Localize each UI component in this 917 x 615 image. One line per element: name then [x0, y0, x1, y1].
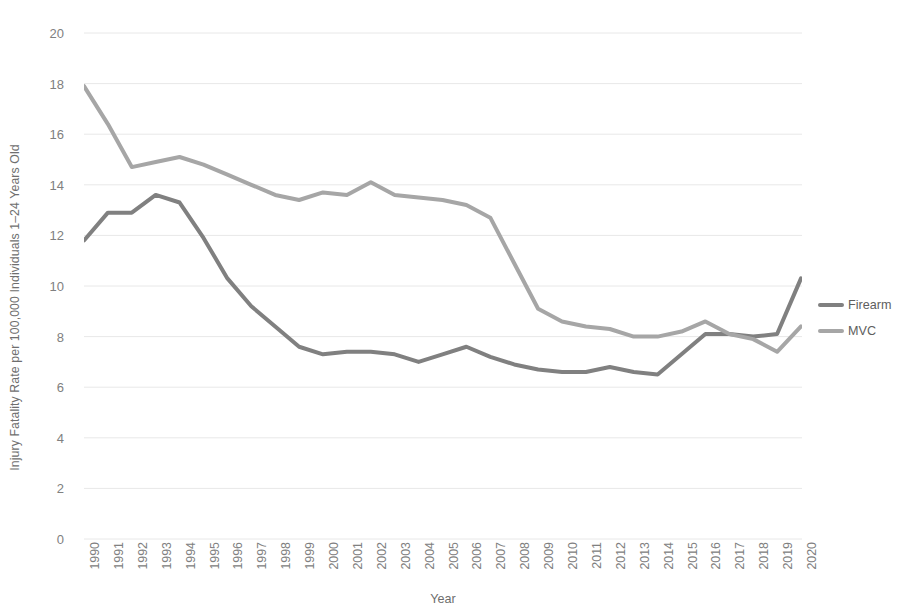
x-tick-label: 1991 [113, 542, 125, 570]
x-tick-label: 1994 [185, 542, 197, 570]
x-tick-label: 2019 [782, 542, 794, 570]
x-tick-label: 2003 [400, 542, 412, 570]
legend-swatch-mvc [818, 329, 844, 333]
y-tick-label: 14 [28, 177, 64, 192]
x-tick-label: 2013 [639, 542, 651, 570]
x-tick-label: 2020 [806, 542, 818, 570]
x-axis-title: Year [84, 592, 802, 606]
x-tick-label: 2008 [519, 542, 531, 570]
legend-item-firearm[interactable]: Firearm [818, 292, 913, 318]
x-tick-label: 2016 [710, 542, 722, 570]
x-tick-label: 1992 [137, 542, 149, 570]
x-tick-label: 1996 [232, 542, 244, 570]
y-tick-label: 6 [28, 380, 64, 395]
y-tick-label: 20 [28, 26, 64, 41]
x-tick-label: 2017 [734, 542, 746, 570]
y-axis-tick-labels: 02468101214161820 [28, 0, 64, 615]
x-tick-label: 2014 [663, 542, 675, 570]
legend-swatch-firearm [818, 303, 844, 307]
y-tick-label: 8 [28, 329, 64, 344]
x-tick-label: 1995 [209, 542, 221, 570]
x-tick-label: 1998 [280, 542, 292, 570]
series-lines [84, 86, 801, 374]
y-tick-label: 2 [28, 481, 64, 496]
plot-area [84, 20, 802, 540]
y-tick-label: 12 [28, 228, 64, 243]
x-tick-label: 2018 [758, 542, 770, 570]
gridlines [84, 33, 802, 539]
x-tick-label: 2002 [376, 542, 388, 570]
x-tick-label: 2001 [352, 542, 364, 570]
x-tick-label: 2006 [471, 542, 483, 570]
legend-label-mvc: MVC [848, 324, 876, 338]
x-tick-label: 2012 [615, 542, 627, 570]
y-tick-label: 16 [28, 127, 64, 142]
line-chart-figure: Injury Fatality Rate per 100,000 Individ… [0, 0, 917, 615]
x-tick-label: 2004 [424, 542, 436, 570]
x-tick-label: 2005 [448, 542, 460, 570]
x-tick-label: 1990 [89, 542, 101, 570]
x-tick-label: 2009 [543, 542, 555, 570]
y-axis-title: Injury Fatality Rate per 100,000 Individ… [0, 0, 30, 615]
x-tick-label: 2011 [591, 542, 603, 569]
x-tick-label: 2010 [567, 542, 579, 570]
y-tick-label: 4 [28, 430, 64, 445]
x-tick-label: 1993 [161, 542, 173, 570]
x-tick-label: 2000 [328, 542, 340, 570]
y-tick-label: 0 [28, 532, 64, 547]
series-line-firearm [84, 195, 801, 375]
y-tick-label: 18 [28, 76, 64, 91]
legend: Firearm MVC [818, 292, 913, 344]
plot-svg [84, 20, 802, 540]
legend-label-firearm: Firearm [848, 298, 891, 312]
x-axis-tick-labels: 1990199119921993199419951996199719981999… [84, 540, 802, 595]
x-tick-label: 1999 [304, 542, 316, 570]
x-tick-label: 2007 [495, 542, 507, 570]
x-tick-label: 1997 [256, 542, 268, 570]
legend-item-mvc[interactable]: MVC [818, 318, 913, 344]
x-tick-label: 2015 [687, 542, 699, 570]
y-tick-label: 10 [28, 279, 64, 294]
